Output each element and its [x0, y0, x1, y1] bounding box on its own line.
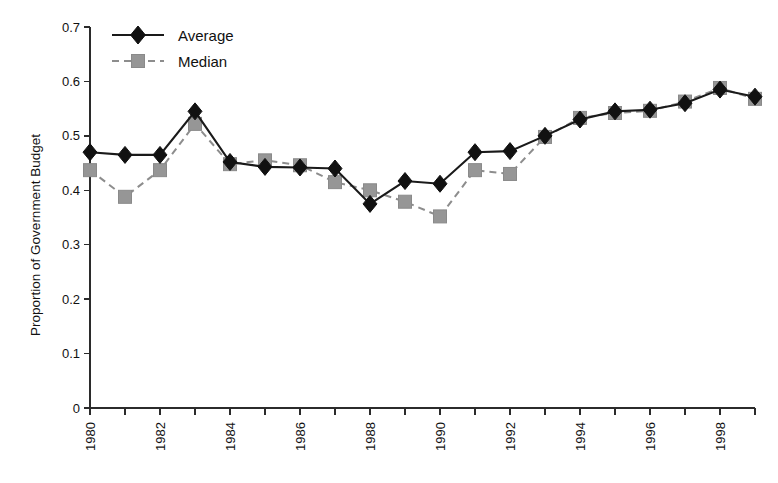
y-axis-tick-label: 0.1	[62, 346, 80, 361]
chart-legend: AverageMedian	[112, 26, 234, 70]
data-point-average	[468, 144, 482, 161]
legend-label-median: Median	[178, 53, 227, 70]
x-axis: 1980198219841986198819901992199419961998	[83, 408, 755, 451]
data-point-average	[398, 173, 412, 190]
y-axis-tick-label: 0.2	[62, 292, 80, 307]
data-point-average	[433, 175, 447, 192]
data-point-average	[83, 144, 97, 161]
x-axis-tick-label: 1984	[223, 422, 238, 451]
x-axis-tick-label: 1990	[433, 422, 448, 451]
y-axis-title-label: Proportion of Government Budget	[28, 134, 43, 336]
y-axis-tick-label: 0.6	[62, 74, 80, 89]
x-axis-tick-label: 1980	[83, 422, 98, 451]
data-point-median	[399, 195, 412, 208]
series-layer	[83, 81, 762, 223]
x-axis-tick-label: 1994	[573, 422, 588, 451]
data-point-median	[119, 190, 132, 203]
x-axis-tick-label: 1986	[293, 422, 308, 451]
chart-container: 00.10.20.30.40.50.60.7 19801982198419861…	[0, 0, 778, 483]
y-axis-tick-label: 0	[73, 401, 80, 416]
y-axis-tick-label: 0.4	[62, 183, 80, 198]
y-axis-tick-label: 0.3	[62, 237, 80, 252]
x-axis-tick-label: 1988	[363, 422, 378, 451]
legend-label-average: Average	[178, 27, 234, 44]
y-axis-tick-label: 0.7	[62, 20, 80, 35]
y-axis: 00.10.20.30.40.50.60.7	[62, 20, 90, 416]
data-point-median	[434, 210, 447, 223]
data-point-median	[154, 164, 167, 177]
legend-marker-median	[132, 55, 145, 68]
y-axis-tick-label: 0.5	[62, 128, 80, 143]
legend-marker-average	[131, 26, 146, 44]
data-point-median	[469, 164, 482, 177]
x-axis-tick-label: 1982	[153, 422, 168, 451]
y-axis-title: Proportion of Government Budget	[28, 134, 43, 336]
x-axis-tick-label: 1996	[643, 422, 658, 451]
line-chart: 00.10.20.30.40.50.60.7 19801982198419861…	[0, 0, 778, 483]
data-point-median	[504, 167, 517, 180]
data-point-average	[118, 146, 132, 163]
x-axis-tick-label: 1992	[503, 422, 518, 451]
x-axis-tick-label: 1998	[713, 422, 728, 451]
data-point-average	[503, 143, 517, 160]
data-point-median	[84, 164, 97, 177]
